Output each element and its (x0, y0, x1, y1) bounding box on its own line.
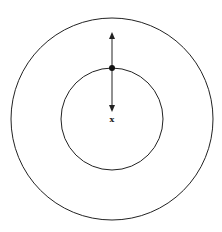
diagram-canvas: x (0, 0, 222, 232)
arrow-up-head-icon (109, 32, 115, 39)
intersection-point (109, 65, 115, 71)
center-label: x (110, 114, 115, 124)
arrow-down-head-icon (109, 105, 115, 112)
